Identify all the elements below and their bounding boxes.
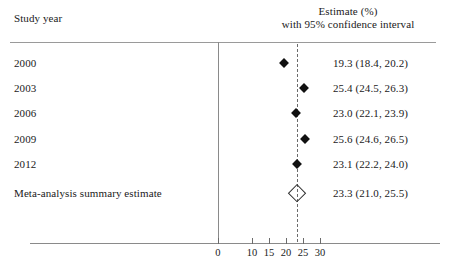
row-estimate-text: 23.1 (22.2, 24.0)	[333, 158, 408, 170]
point-estimate-marker	[279, 58, 289, 68]
header-divider-rule	[10, 42, 436, 43]
x-axis-tick	[286, 238, 287, 244]
column-header-estimate: Estimate (%) with 95% confidence interva…	[262, 5, 434, 31]
row-label: 2009	[14, 133, 36, 145]
x-axis-tick	[303, 238, 304, 244]
summary-reference-line	[297, 44, 298, 242]
row-estimate-text: 19.3 (18.4, 20.2)	[333, 57, 408, 69]
row-label: 2006	[14, 107, 36, 119]
row-label: 2000	[14, 57, 36, 69]
row-label: 2003	[14, 82, 36, 94]
column-header-study-year: Study year	[14, 12, 62, 24]
row-estimate-text: 23.3 (21.0, 25.5)	[333, 187, 408, 199]
row-label: 2012	[14, 158, 36, 170]
x-axis-tick	[320, 238, 321, 244]
forest-plot: Study year Estimate (%) with 95% confide…	[0, 0, 470, 271]
summary-diamond-marker	[288, 184, 306, 202]
row-estimate-text: 25.4 (24.5, 26.3)	[333, 82, 408, 94]
x-axis-line	[30, 243, 440, 244]
point-estimate-marker	[292, 159, 302, 169]
column-header-estimate-line1: Estimate (%)	[262, 5, 434, 18]
point-estimate-marker	[299, 83, 309, 93]
x-axis-tick	[218, 238, 219, 244]
row-estimate-text: 25.6 (24.6, 26.5)	[333, 133, 408, 145]
row-estimate-text: 23.0 (22.1, 23.9)	[333, 107, 408, 119]
x-axis-tick-label: 0	[206, 247, 230, 258]
column-header-estimate-line2: with 95% confidence interval	[262, 18, 434, 31]
x-axis-tick	[269, 238, 270, 244]
point-estimate-marker	[300, 134, 310, 144]
column-separator-line	[218, 42, 219, 243]
x-axis-tick-label: 30	[308, 247, 332, 258]
point-estimate-marker	[291, 108, 301, 118]
row-label: Meta-analysis summary estimate	[14, 187, 162, 199]
x-axis-tick	[252, 238, 253, 244]
